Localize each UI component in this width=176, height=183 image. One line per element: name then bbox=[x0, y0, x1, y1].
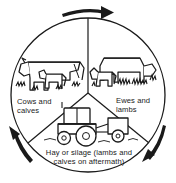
cow-rear bbox=[80, 62, 84, 80]
calf-head bbox=[39, 70, 46, 79]
lamb-body bbox=[96, 72, 112, 86]
calf-body bbox=[45, 74, 62, 88]
lamb-head bbox=[90, 68, 98, 79]
tractor-front-hub bbox=[62, 136, 66, 140]
rotation-cycle-diagram: Cows and calves Ewes and lambs Hay or si… bbox=[0, 0, 176, 183]
tractor-drawbar bbox=[96, 124, 108, 128]
segment-label-hay-or-silage: Hay or silage (lambs and calves on after… bbox=[29, 148, 149, 167]
implement-hub bbox=[116, 134, 120, 138]
ewe-head bbox=[144, 64, 156, 76]
tractor-rear-hub bbox=[83, 133, 90, 140]
arrow-top bbox=[62, 6, 114, 19]
segment-label-ewes-and-lambs: Ewes and lambs bbox=[116, 96, 172, 114]
segment-label-cows-and-calves: Cows and calves bbox=[17, 97, 79, 115]
